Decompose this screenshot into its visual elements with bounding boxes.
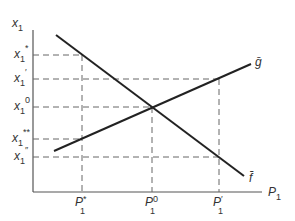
x-tick-p1-zero: P01 [145,194,158,216]
x-tick-p1-star: P*1 [75,194,87,216]
curve-g-label: ḡ [255,55,262,69]
y-tick-x1-zero: x10 [13,95,30,116]
y-tick-x1-star: x1* [13,43,29,64]
curve-f-label: f̄ [249,171,254,185]
x-axis-label: P1 [268,185,281,202]
y-tick-x1-prime: x1′ [13,67,27,88]
guide-lines [33,55,219,192]
y-tick-x1-double-prime: x1″ [13,145,29,166]
diagram-canvas: x1 P1 x1* x1′ x10 x1** x1″ P*1 P01 P′1 f… [0,0,295,221]
x-tick-p1-prime: P′1 [213,194,223,216]
y-axis-label: x1 [11,16,23,33]
curve-f [56,35,244,176]
